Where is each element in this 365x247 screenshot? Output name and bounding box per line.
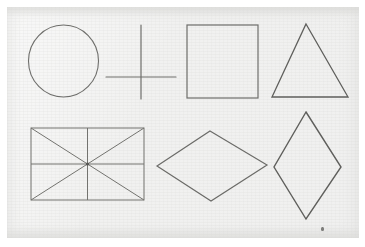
shapes-canvas bbox=[0, 0, 365, 247]
screenshot-root bbox=[0, 0, 365, 247]
rhombus-wide-shape bbox=[157, 131, 267, 201]
rhombus-tall-shape bbox=[274, 112, 341, 219]
cross-shape bbox=[106, 25, 176, 99]
ink-speck bbox=[321, 227, 324, 231]
square-shape bbox=[187, 25, 258, 98]
triangle-shape bbox=[272, 24, 348, 97]
circle-shape bbox=[29, 25, 99, 97]
rectangle-center-point bbox=[86, 162, 89, 165]
rectangle-with-diagonals-shape bbox=[31, 128, 144, 200]
